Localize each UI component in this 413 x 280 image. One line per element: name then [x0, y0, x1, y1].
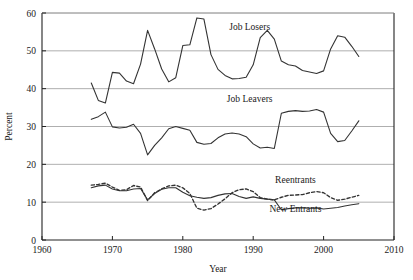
- line-chart: 196019701980199020002010 0102030405060 J…: [0, 0, 413, 280]
- y-tick-label: 30: [27, 122, 37, 132]
- x-tick-label: 1970: [103, 245, 122, 255]
- x-tick-label: 1990: [244, 245, 263, 255]
- y-axis-ticks: 0102030405060: [27, 9, 47, 246]
- x-tick-label: 2010: [385, 245, 404, 255]
- x-axis-ticks: 196019701980199020002010: [33, 236, 404, 255]
- x-tick-label: 1980: [173, 245, 192, 255]
- series-label-job-leavers: Job Leavers: [227, 94, 273, 104]
- y-tick-label: 0: [31, 236, 36, 246]
- series-line-job-leavers: [91, 109, 359, 154]
- x-axis-title: Year: [209, 264, 227, 274]
- y-axis-title: Percent: [4, 112, 14, 141]
- y-tick-label: 60: [27, 9, 37, 19]
- series-line-job-losers: [91, 18, 359, 103]
- gridlines: [42, 13, 394, 202]
- series-label-job-losers: Job Losers: [229, 22, 270, 32]
- y-tick-label: 40: [27, 84, 37, 94]
- series-lines: [91, 18, 359, 210]
- chart-container: 196019701980199020002010 0102030405060 J…: [0, 0, 413, 280]
- x-tick-label: 1960: [33, 245, 52, 255]
- y-tick-label: 50: [27, 46, 37, 56]
- series-label-reentrants: Reentrants: [275, 175, 316, 185]
- series-label-new-entrants: New Entrants: [269, 204, 321, 214]
- x-tick-label: 2000: [314, 245, 333, 255]
- y-tick-label: 10: [27, 198, 37, 208]
- y-tick-label: 20: [27, 160, 37, 170]
